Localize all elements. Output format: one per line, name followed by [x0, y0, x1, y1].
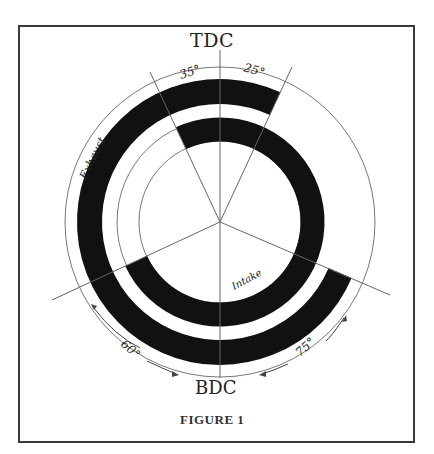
- angle-35-label: 35°: [178, 62, 203, 82]
- arc-75-arrow-upper: [326, 318, 344, 341]
- intake-label: Intake: [229, 267, 264, 292]
- intake-arc: [136, 130, 312, 315]
- angle-60-label: 60°: [118, 337, 143, 362]
- bdc-label: BDC: [195, 377, 236, 398]
- arc-60-arrow-lower: [147, 361, 176, 374]
- tdc-label: TDC: [190, 29, 234, 51]
- figure-caption: FIGURE 1: [180, 412, 244, 428]
- arrowhead-icon: [172, 371, 179, 377]
- angle-25-label: 25°: [241, 60, 266, 80]
- intake-close-line: [52, 222, 220, 300]
